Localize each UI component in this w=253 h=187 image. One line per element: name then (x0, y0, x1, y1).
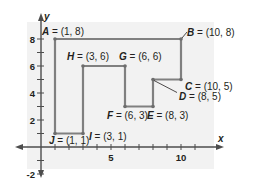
vertex-label-i: I = (3, 1) (89, 131, 127, 142)
vertex-label-j: J = (1, 1) (49, 135, 89, 146)
vertex-e (151, 105, 155, 109)
vertex-label-g: G = (6, 6) (119, 51, 162, 62)
y-tick-label: -2 (27, 169, 35, 180)
vertex-label-f: F = (6, 3) (107, 110, 148, 121)
x-axis-arrow-left-icon (15, 144, 23, 150)
y-tick-label: 4 (30, 88, 36, 99)
y-tick-label: 8 (30, 34, 35, 45)
x-axis-arrow-right-icon (216, 144, 224, 150)
x-tick-label: 5 (108, 152, 114, 163)
vertex-g (123, 64, 127, 68)
y-tick-label: 6 (30, 61, 35, 72)
vertex-label-a: A = (1, 8) (41, 26, 84, 37)
vertex-f (123, 105, 127, 109)
vertex-label-e: E = (8, 3) (147, 110, 188, 121)
coordinate-plane-figure: 5108642-2xy A = (1, 8)B = (10, 8)C = (10… (0, 0, 253, 187)
vertex-label-h: H = (3, 6) (67, 51, 109, 62)
vertex-label-d: D = (8, 5) (179, 91, 221, 102)
vertex-a (53, 37, 57, 41)
y-axis-label: y (43, 11, 50, 22)
x-tick-label: 10 (176, 152, 187, 163)
x-axis-label: x (217, 133, 224, 144)
coordinate-plane-svg: 5108642-2xy A = (1, 8)B = (10, 8)C = (10… (0, 0, 253, 187)
y-tick-label: 2 (30, 115, 35, 126)
vertex-h (81, 64, 85, 68)
vertex-c (179, 78, 183, 82)
vertex-label-b: B = (10, 8) (187, 27, 235, 38)
